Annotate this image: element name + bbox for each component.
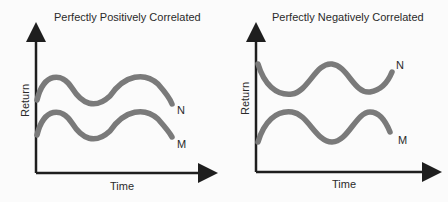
series-label-n: N (177, 104, 185, 116)
y-axis-label: Return (239, 82, 251, 115)
y-axis-label: Return (19, 84, 31, 117)
negative-correlation-panel: Perfectly Negatively Correlated N M Time… (224, 0, 448, 202)
x-axis-label: Time (110, 180, 134, 192)
curve-m (258, 112, 390, 142)
curve-n (37, 77, 172, 104)
series-label-m: M (398, 134, 407, 146)
curve-n (258, 64, 392, 94)
positive-correlation-panel: Perfectly Positively Correlated N M Time… (0, 0, 224, 202)
series-label-m: M (177, 138, 186, 150)
curve-m (37, 112, 172, 139)
negative-correlation-chart (224, 0, 448, 202)
positive-correlation-chart (0, 0, 224, 202)
series-label-n: N (396, 59, 404, 71)
x-axis-label: Time (332, 178, 356, 190)
